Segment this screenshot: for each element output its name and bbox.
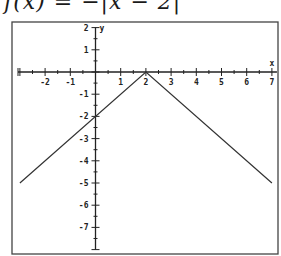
axis-ticks (18, 28, 272, 250)
plot-frame (12, 22, 278, 254)
x-tick-label: 4 (194, 78, 199, 87)
y-tick-label: -5 (79, 179, 89, 188)
function-plot: -2-1123456721-1-2-3-4-5-6-7xy (0, 0, 281, 256)
y-axis-label: y (100, 24, 105, 33)
y-tick-label: -6 (79, 201, 89, 210)
x-tick-label: 1 (118, 78, 123, 87)
x-tick-label: -1 (65, 78, 75, 87)
y-tick-label: 1 (84, 46, 89, 55)
y-tick-label: -4 (79, 157, 89, 166)
x-axis-label: x (269, 59, 274, 68)
x-tick-label: -2 (40, 78, 50, 87)
y-tick-label: -2 (79, 112, 89, 121)
y-tick-label: -3 (79, 135, 89, 144)
y-tick-label: -1 (79, 90, 89, 99)
y-tick-label: 2 (84, 24, 89, 33)
x-tick-label: 5 (219, 78, 224, 87)
y-tick-label: -7 (79, 223, 89, 232)
tick-labels: -2-1123456721-1-2-3-4-5-6-7xy (40, 24, 274, 233)
axes (18, 28, 277, 250)
x-tick-label: 3 (169, 78, 174, 87)
x-tick-label: 2 (143, 78, 148, 87)
x-tick-label: 6 (244, 78, 249, 87)
x-tick-label: 7 (269, 78, 274, 87)
graph-line (20, 72, 272, 183)
